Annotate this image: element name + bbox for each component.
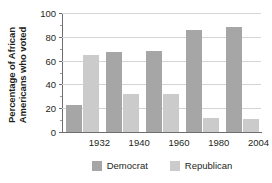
y-axis-tick — [59, 13, 62, 14]
bar-republican-1960 — [163, 94, 179, 132]
y-axis-tick — [59, 61, 62, 62]
y-axis-tick — [59, 132, 62, 133]
y-axis-tick — [59, 84, 62, 85]
bar-group: 1960 — [146, 13, 179, 132]
bar-republican-1932 — [83, 55, 99, 132]
bar-group: 1980 — [186, 13, 219, 132]
plot-area: 02040608010019321940196019802004 — [62, 13, 261, 132]
x-axis-line — [62, 132, 262, 133]
y-axis-minor-tick — [60, 25, 62, 26]
y-axis-tick — [59, 108, 62, 109]
bar-democrat-1980 — [186, 30, 202, 132]
legend-item-democrat: Democrat — [92, 160, 148, 171]
legend-label: Democrat — [107, 160, 148, 171]
legend-swatch-republican — [170, 161, 180, 171]
legend-item-republican: Republican — [170, 160, 233, 171]
y-axis-tick — [59, 37, 62, 38]
y-axis-tick-label: 60 — [45, 55, 56, 66]
y-axis-tick-label: 40 — [45, 79, 56, 90]
bar-republican-1940 — [123, 94, 139, 132]
x-axis-tick-label: 2004 — [229, 137, 272, 148]
y-axis-title-line-1: Percentage of African — [6, 27, 17, 123]
bar-democrat-2004 — [226, 27, 242, 132]
bar-republican-1980 — [203, 118, 219, 132]
bar-chart-figure: Percentage of African Americans who vote… — [0, 0, 272, 183]
y-axis-tick-label: 80 — [45, 31, 56, 42]
y-axis-tick-label: 100 — [40, 8, 56, 19]
bar-group: 1940 — [106, 13, 139, 132]
chart-legend: DemocratRepublican — [62, 160, 262, 171]
y-axis-title-line-2: Americans who voted — [17, 27, 28, 123]
bar-democrat-1940 — [106, 52, 122, 132]
y-axis-title: Percentage of African Americans who vote… — [0, 0, 34, 150]
y-axis-minor-tick — [60, 73, 62, 74]
bar-republican-2004 — [243, 119, 259, 132]
y-axis-tick-label: 0 — [51, 127, 56, 138]
y-axis-tick-label: 20 — [45, 103, 56, 114]
bar-group: 2004 — [226, 13, 259, 132]
y-axis-minor-tick — [60, 49, 62, 50]
bar-democrat-1960 — [146, 51, 162, 132]
legend-swatch-democrat — [92, 161, 102, 171]
legend-label: Republican — [185, 160, 233, 171]
bar-group: 1932 — [66, 13, 99, 132]
bar-democrat-1932 — [66, 105, 82, 132]
y-axis-minor-tick — [60, 120, 62, 121]
y-axis-minor-tick — [60, 96, 62, 97]
